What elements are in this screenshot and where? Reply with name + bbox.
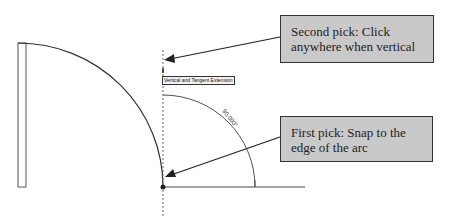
first-pick-callout: First pick: Snap to the edge of the arc bbox=[280, 116, 433, 162]
first-pick-arrowhead bbox=[165, 169, 176, 177]
second-pick-callout: Second pick: Click anywhere when vertica… bbox=[280, 15, 434, 63]
second-pick-arrowhead bbox=[164, 54, 175, 63]
snap-tooltip: Vertical and Tangent Extension bbox=[162, 76, 235, 85]
second-pick-leader bbox=[170, 37, 280, 59]
snap-point[interactable] bbox=[161, 185, 166, 190]
door-swing-arc bbox=[18, 43, 163, 187]
wall-rectangle bbox=[18, 43, 26, 187]
first-pick-leader bbox=[171, 137, 280, 175]
